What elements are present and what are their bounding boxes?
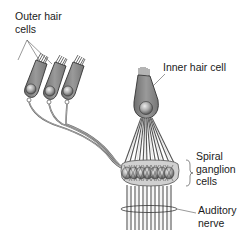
outer-hair-cells-label: Outer hair cells: [15, 10, 62, 35]
inner-hair-cell-fibers: [124, 118, 175, 165]
spiral-ganglion-cells-label: Spiral ganglion cells: [196, 150, 236, 188]
inner-hair-cell-label: Inner hair cell: [163, 61, 226, 74]
auditory-nerve-leader: [177, 209, 196, 213]
inner-hair-cell-nucleus: [140, 102, 153, 115]
outer-hair-cells-leader: [18, 40, 52, 64]
auditory-nerve-label: Auditory nerve: [198, 204, 237, 229]
spiral-ganglion-brace: [186, 160, 193, 186]
cochlear-innervation-diagram: Outer hair cells Inner hair cell Spiral …: [0, 0, 239, 235]
auditory-nerve-ring: [121, 206, 177, 213]
auditory-nerve-fibers: [127, 185, 171, 230]
inner-hair-cell-stereocilia: [139, 67, 149, 76]
inner-hair-cell-leader: [153, 74, 165, 86]
